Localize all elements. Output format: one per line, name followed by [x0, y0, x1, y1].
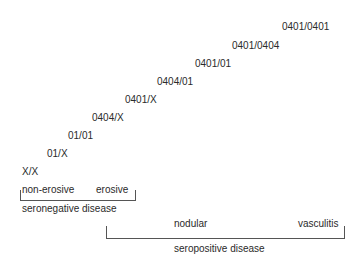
genotype-label: 0404/X — [92, 112, 124, 124]
genotype-label: 0401/0401 — [282, 21, 329, 33]
genotype-label: X/X — [22, 166, 38, 178]
non-erosive-label: non-erosive — [22, 184, 74, 196]
genotype-label: 0401/0404 — [232, 40, 279, 52]
genotype-label: 01/01 — [68, 130, 93, 142]
erosive-label: erosive — [96, 184, 128, 196]
seronegative-title: seronegative disease — [22, 203, 117, 215]
genotype-label: 0401/X — [125, 94, 157, 106]
genotype-label: 0401/01 — [195, 58, 231, 70]
nodular-label: nodular — [174, 218, 207, 230]
vasculitis-label: vasculitis — [298, 218, 339, 230]
genotype-label: 01/X — [47, 148, 68, 160]
seropositive-title: seropositive disease — [174, 243, 265, 255]
genotype-label: 0404/01 — [157, 76, 193, 88]
